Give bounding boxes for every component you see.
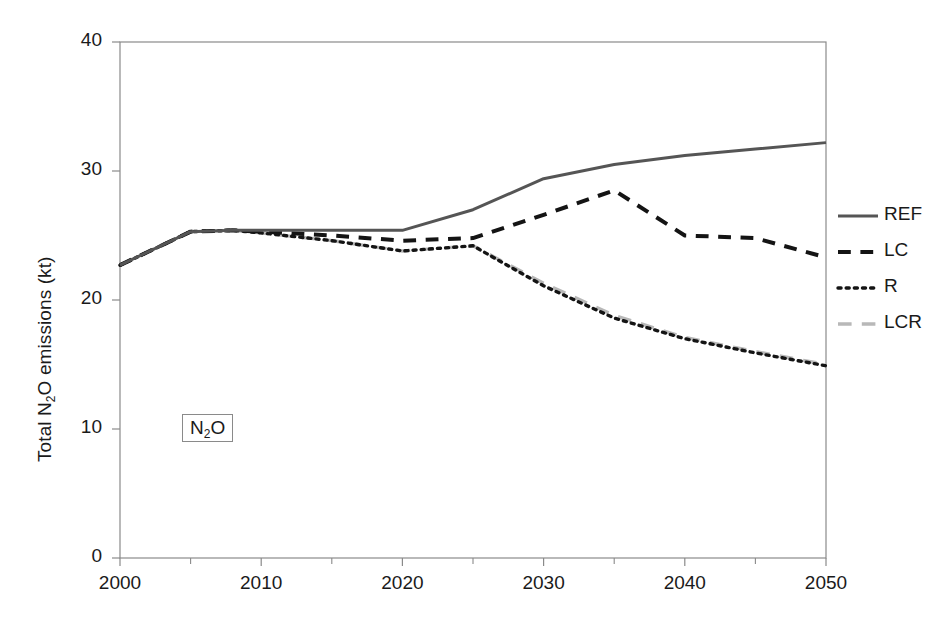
- legend-label-lc[interactable]: LC: [884, 239, 908, 261]
- x-tick-label: 2000: [85, 572, 155, 594]
- legend-label-r[interactable]: R: [884, 275, 898, 297]
- annotation-pre: N: [190, 417, 204, 438]
- annotation-n2o-badge: N2O: [182, 414, 233, 442]
- y-tick-label: 40: [54, 29, 102, 51]
- y-tick-label: 20: [54, 287, 102, 309]
- x-tick-label: 2020: [367, 572, 437, 594]
- x-tick-label: 2030: [509, 572, 579, 594]
- x-tick-label: 2040: [650, 572, 720, 594]
- x-tick-label: 2050: [791, 572, 861, 594]
- annotation-post: O: [210, 417, 225, 438]
- y-tick-label: 30: [54, 158, 102, 180]
- x-tick-label: 2010: [226, 572, 296, 594]
- annotation-sub: 2: [204, 427, 211, 441]
- y-tick-label: 10: [54, 416, 102, 438]
- plot-frame: [120, 42, 826, 558]
- series-line-r: [120, 230, 826, 365]
- chart-container: Total N2O emissions (kt) N2O 40302010020…: [0, 0, 935, 634]
- plot-area: [0, 0, 935, 634]
- y-tick-label: 0: [54, 545, 102, 567]
- legend-label-ref[interactable]: REF: [884, 203, 922, 225]
- legend-label-lcr[interactable]: LCR: [884, 311, 922, 333]
- series-line-lc: [120, 190, 826, 265]
